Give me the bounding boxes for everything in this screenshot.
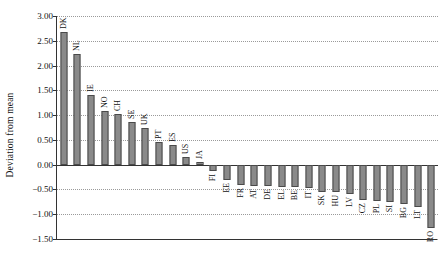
bar-item: IT (302, 16, 316, 239)
y-axis-title: Deviation from mean (2, 0, 18, 269)
y-axis-tick-label: 2.00 (37, 61, 53, 71)
bar-category-label: RO (427, 231, 435, 242)
bar-category-label: SE (128, 109, 136, 118)
bar-category-label: CZ (359, 203, 367, 213)
bar-chart: Deviation from mean 3.002.502.001.501.00… (0, 0, 441, 269)
bar (88, 95, 95, 164)
bar-category-label: NO (101, 96, 109, 108)
bar-item: LT (411, 16, 425, 239)
bar (332, 165, 339, 193)
bar (264, 165, 271, 187)
bar-item: UK (139, 16, 153, 239)
bar-item: RO (424, 16, 438, 239)
bar-item: PT (152, 16, 166, 239)
bar-category-label: US (182, 144, 190, 154)
bar-item: CH (111, 16, 125, 239)
y-axis-tick-label: 0.50 (37, 135, 53, 145)
bar (115, 114, 122, 165)
bar-item: DE (261, 16, 275, 239)
bar (128, 122, 135, 165)
bar-category-label: BG (400, 207, 408, 218)
y-axis-title-text: Deviation from mean (5, 92, 15, 177)
bar-category-label: PL (373, 204, 381, 213)
bar-item: LV (343, 16, 357, 239)
bar-category-label: BE (291, 190, 299, 200)
y-axis-tick-label: 2.50 (37, 36, 53, 46)
bar-item: BE (288, 16, 302, 239)
bar (251, 165, 258, 186)
bar (360, 165, 367, 201)
bar-item: ES (166, 16, 180, 239)
bar (101, 111, 108, 165)
y-axis-tick-label: −1.00 (32, 209, 53, 219)
bar (387, 165, 394, 202)
bar (183, 157, 190, 164)
bar-category-label: FI (209, 174, 217, 181)
bar-item: CZ (356, 16, 370, 239)
bar (196, 162, 203, 165)
bar (60, 32, 67, 165)
bar (210, 165, 217, 171)
bar-category-label: EL (278, 190, 286, 200)
bar-category-label: SI (386, 205, 394, 212)
bar-category-label: IT (305, 191, 313, 199)
bar (373, 165, 380, 202)
bar (346, 165, 353, 195)
bar-item: DK (57, 16, 71, 239)
bar (305, 165, 312, 188)
bar-category-label: UK (141, 113, 149, 125)
bar-item: SE (125, 16, 139, 239)
bar-item: HU (329, 16, 343, 239)
bar-item: EE (220, 16, 234, 239)
y-axis-tick-label: 1.50 (37, 85, 53, 95)
bar-category-label: PT (155, 130, 163, 139)
bar-item: US (179, 16, 193, 239)
y-axis-tick-label: −0.50 (32, 184, 53, 194)
bar (428, 165, 435, 228)
y-axis-tick-label: −1.50 (32, 234, 53, 244)
bar-category-label: CH (114, 100, 122, 111)
bar-item: IE (84, 16, 98, 239)
bar-category-label: DK (60, 17, 68, 29)
bar-category-label: LV (346, 197, 354, 207)
bar-category-label: HU (332, 195, 340, 207)
bar-category-label: AT (250, 189, 258, 199)
x-axis-line (56, 239, 437, 240)
bar-item: NL (71, 16, 85, 239)
bar-category-label: SK (318, 195, 326, 205)
bar (292, 165, 299, 188)
bar-category-label: LT (414, 210, 422, 219)
bar-item: BG (397, 16, 411, 239)
bar-item: SK (316, 16, 330, 239)
bar (319, 165, 326, 192)
bar (142, 128, 149, 165)
bar (278, 165, 285, 187)
y-axis-tick-label: 0.00 (37, 160, 53, 170)
bar-item: SI (384, 16, 398, 239)
bar-item: FR (234, 16, 248, 239)
bar (224, 165, 231, 180)
bar-category-label: IE (87, 85, 95, 93)
bar-item: NO (98, 16, 112, 239)
bar-category-label: JA (196, 150, 204, 159)
bar-item: EL (275, 16, 289, 239)
bar-item: PL (370, 16, 384, 239)
bar (237, 165, 244, 185)
bar-series: DKNLIENOCHSEUKPTESUSJAFIEEFRATDEELBEITSK… (57, 16, 438, 239)
bar-item: AT (248, 16, 262, 239)
bar (156, 142, 163, 165)
bar-category-label: EE (223, 183, 231, 193)
bar (169, 145, 176, 164)
plot-area: 3.002.502.001.501.000.500.00−0.50−1.00−1… (56, 16, 438, 239)
bar-category-label: ES (169, 133, 177, 142)
bar-category-label: FR (237, 188, 245, 198)
bar-category-label: DE (264, 189, 272, 200)
bar-item: JA (193, 16, 207, 239)
bar (74, 54, 81, 165)
bar (414, 165, 421, 208)
bar (400, 165, 407, 205)
y-axis-tick-label: 1.00 (37, 110, 53, 120)
bar-item: FI (207, 16, 221, 239)
bar-category-label: NL (73, 40, 81, 51)
y-axis-tick-label: 3.00 (37, 11, 53, 21)
